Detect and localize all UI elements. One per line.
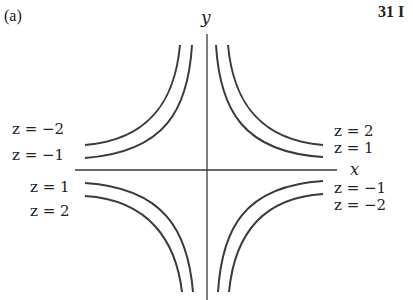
page-number: 31 I bbox=[378, 4, 404, 19]
label-right-z-1: z = 1 bbox=[334, 141, 374, 156]
label-left-z-2: z = 2 bbox=[30, 204, 70, 219]
panel-label: (a) bbox=[4, 8, 22, 23]
curve-lower-left-inner bbox=[85, 183, 193, 292]
curve-lower-left-outer bbox=[85, 196, 182, 292]
label-left-z-1: z = 1 bbox=[30, 180, 70, 195]
label-left-z-neg1: z = −1 bbox=[12, 148, 64, 163]
curve-lower-right-outer bbox=[229, 194, 323, 292]
curve-upper-left-outer bbox=[85, 45, 180, 145]
curve-upper-right-outer bbox=[228, 45, 323, 145]
curve-upper-left-inner bbox=[85, 45, 192, 158]
label-left-z-neg2: z = −2 bbox=[12, 122, 64, 137]
curve-lower-right-inner bbox=[218, 181, 323, 292]
curve-upper-right-inner bbox=[216, 45, 323, 157]
contour-diagram: (a) 31 I y x z = −2 z = −1 z = 1 z = 2 z… bbox=[0, 0, 413, 300]
label-right-z-neg1: z = −1 bbox=[334, 181, 386, 196]
label-right-z-2: z = 2 bbox=[334, 124, 374, 139]
label-right-z-neg2: z = −2 bbox=[334, 198, 386, 213]
y-axis-label: y bbox=[201, 10, 211, 25]
x-axis-label: x bbox=[350, 162, 359, 177]
